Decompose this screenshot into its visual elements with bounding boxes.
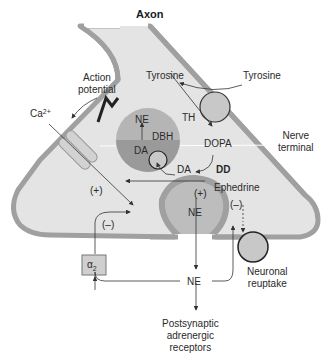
tyrosine-outside-label: Tyrosine xyxy=(243,70,281,82)
release-ne-label: NE xyxy=(188,207,202,219)
alpha2-label: α2 xyxy=(87,259,97,275)
neuronal-reuptake-label: Neuronal reuptake xyxy=(247,266,288,290)
minus-alpha-label: (–) xyxy=(102,219,114,231)
minus-ephedrine-label: (–) xyxy=(230,199,242,211)
vesicle-da-label: DA xyxy=(134,145,148,157)
calcium-label: Ca2+ xyxy=(30,108,51,120)
calcium-text: Ca xyxy=(30,108,43,119)
tyrosine-transporter xyxy=(200,92,230,122)
synapse-ne-label: NE xyxy=(187,276,201,288)
dopa-label: DOPA xyxy=(204,138,232,150)
vesicle-dbh-label: DBH xyxy=(152,131,173,143)
ephedrine-label: Ephedrine xyxy=(214,182,260,194)
nerve-terminal-label: Nerve terminal xyxy=(278,130,314,154)
calcium-charge: 2+ xyxy=(43,108,51,115)
plus-left-label: (+) xyxy=(90,185,103,197)
dd-enzyme-label: DD xyxy=(216,164,230,176)
vesicle-ne-label: NE xyxy=(135,114,149,126)
postsynaptic-receptors-label: Postsynaptic adrenergic receptors xyxy=(162,318,219,354)
th-enzyme-label: TH xyxy=(182,112,195,124)
reuptake-transporter xyxy=(238,232,268,262)
action-potential-label: Action potential xyxy=(78,72,116,96)
tyrosine-inside-label: Tyrosine xyxy=(146,70,184,82)
da-cytoplasm-label: DA xyxy=(177,164,191,176)
alpha-subscript: 2 xyxy=(93,265,97,272)
plus-right-label: (+) xyxy=(194,188,207,200)
diagram-canvas xyxy=(0,0,324,359)
vesicle-transporter xyxy=(149,151,167,169)
axon-title: Axon xyxy=(136,8,164,20)
